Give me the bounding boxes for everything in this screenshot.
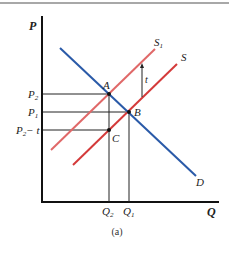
x-axis-label: Q (207, 205, 216, 219)
point-b (127, 110, 131, 114)
supply-label: S (181, 51, 187, 63)
p2-label: P2 (27, 88, 39, 102)
q2-label: Q2 (102, 205, 114, 219)
point-a (107, 92, 111, 96)
supply-shifted-label: S1 (154, 36, 163, 50)
figure-caption: (a) (111, 226, 122, 238)
q1-label: Q1 (123, 205, 134, 219)
demand-label: D (195, 176, 204, 188)
y-axis-label: P (29, 19, 37, 33)
p1-label: P1 (27, 106, 38, 120)
p2-minus-t-label: P2− t (15, 124, 40, 138)
point-b-label: B (134, 106, 141, 118)
point-c (107, 128, 111, 132)
tax-label: t (145, 74, 148, 85)
point-a-label: A (102, 79, 110, 91)
tax-incidence-diagram: P Q P2 P1 P2− t Q2 Q1 D S S1 A B C t (a) (0, 0, 229, 253)
point-c-label: C (112, 132, 120, 144)
